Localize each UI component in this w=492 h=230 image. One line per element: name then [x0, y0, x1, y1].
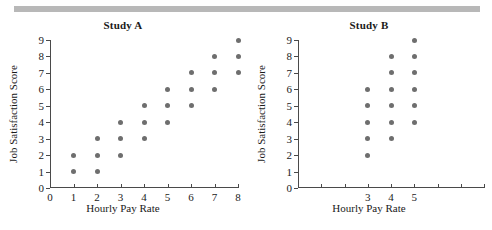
- plot-area-study-b: 0123456789345: [298, 40, 484, 188]
- chart-title-study-b: Study B: [246, 19, 492, 31]
- y-tick-b-5: [294, 106, 298, 107]
- y-tick-b-8: [294, 56, 298, 57]
- data-point: [389, 54, 394, 59]
- x-tick-a-3: [121, 184, 122, 188]
- data-point: [212, 70, 217, 75]
- data-point: [189, 70, 194, 75]
- data-point: [412, 54, 417, 59]
- x-tick-a-6: [191, 184, 192, 188]
- data-point: [236, 54, 241, 59]
- data-point: [95, 136, 100, 141]
- data-point: [165, 87, 170, 92]
- y-tick-b-9: [294, 40, 298, 41]
- y-tick-a-2: [46, 155, 50, 156]
- figure-container: Study A Job Satisfaction Score 012345678…: [0, 0, 492, 230]
- x-axis-title-study-b: Hourly Pay Rate: [246, 202, 492, 214]
- y-tick-label-b-8: 8: [287, 51, 293, 62]
- y-tick-label-b-7: 7: [287, 67, 293, 78]
- y-tick-b-4: [294, 122, 298, 123]
- data-point: [412, 87, 417, 92]
- data-point: [389, 103, 394, 108]
- data-point: [236, 70, 241, 75]
- data-point: [118, 153, 123, 158]
- y-tick-a-4: [46, 122, 50, 123]
- x-tick-b-3: [368, 184, 369, 188]
- y-tick-label-b-1: 1: [287, 166, 293, 177]
- data-point: [189, 103, 194, 108]
- x-tick-b-2: [345, 184, 346, 188]
- data-point: [165, 103, 170, 108]
- x-tick-a-2: [97, 184, 98, 188]
- y-tick-label-a-4: 4: [39, 117, 45, 128]
- x-tick-b-1: [321, 184, 322, 188]
- data-point: [365, 87, 370, 92]
- y-axis-line-study-b: [298, 40, 299, 186]
- data-point: [412, 103, 417, 108]
- y-tick-label-a-3: 3: [39, 133, 45, 144]
- data-point: [95, 153, 100, 158]
- data-point: [142, 120, 147, 125]
- chart-title-study-a: Study A: [0, 19, 246, 31]
- y-tick-label-b-9: 9: [287, 35, 293, 46]
- x-tick-b-6: [438, 184, 439, 188]
- y-axis-title-text: Job Satisfaction Score: [255, 65, 267, 163]
- data-point: [236, 38, 241, 43]
- y-tick-label-b-3: 3: [287, 133, 293, 144]
- y-tick-label-a-7: 7: [39, 67, 45, 78]
- data-point: [389, 70, 394, 75]
- y-tick-b-0: [294, 188, 298, 189]
- y-tick-label-b-4: 4: [287, 117, 293, 128]
- x-tick-b-7: [461, 184, 462, 188]
- x-tick-b-8: [484, 184, 485, 188]
- data-point: [71, 169, 76, 174]
- data-point: [142, 136, 147, 141]
- data-point: [412, 38, 417, 43]
- plot-area-study-a: 0123456789012345678: [50, 40, 238, 188]
- y-tick-b-7: [294, 73, 298, 74]
- y-axis-title-study-a: Job Satisfaction Score: [6, 40, 20, 188]
- x-tick-a-0: [50, 184, 51, 188]
- data-point: [365, 120, 370, 125]
- data-point: [71, 153, 76, 158]
- y-tick-label-a-0: 0: [39, 183, 45, 194]
- y-tick-a-9: [46, 40, 50, 41]
- data-point: [365, 153, 370, 158]
- y-tick-b-3: [294, 139, 298, 140]
- y-tick-label-a-2: 2: [39, 150, 45, 161]
- y-tick-label-a-1: 1: [39, 166, 45, 177]
- y-tick-a-8: [46, 56, 50, 57]
- x-tick-a-7: [215, 184, 216, 188]
- data-point: [412, 120, 417, 125]
- x-tick-a-8: [238, 184, 239, 188]
- y-tick-label-a-6: 6: [39, 84, 45, 95]
- data-point: [389, 120, 394, 125]
- y-tick-label-b-6: 6: [287, 84, 293, 95]
- chart-panel-study-b: Study B Job Satisfaction Score 012345678…: [246, 0, 492, 230]
- data-point: [165, 120, 170, 125]
- y-tick-b-1: [294, 172, 298, 173]
- x-tick-b-5: [414, 184, 415, 188]
- y-axis-line-study-a: [50, 40, 51, 186]
- data-point: [118, 136, 123, 141]
- data-point: [365, 136, 370, 141]
- y-tick-a-0: [46, 188, 50, 189]
- x-tick-a-4: [144, 184, 145, 188]
- y-tick-a-1: [46, 172, 50, 173]
- data-point: [389, 136, 394, 141]
- y-tick-label-a-8: 8: [39, 51, 45, 62]
- data-point: [118, 120, 123, 125]
- y-axis-title-text: Job Satisfaction Score: [7, 65, 19, 163]
- data-point: [212, 54, 217, 59]
- x-tick-b-4: [391, 184, 392, 188]
- x-axis-title-study-a: Hourly Pay Rate: [0, 202, 246, 214]
- data-point: [142, 103, 147, 108]
- x-tick-a-5: [168, 184, 169, 188]
- y-tick-label-b-0: 0: [287, 183, 293, 194]
- y-tick-label-a-9: 9: [39, 35, 45, 46]
- y-tick-b-6: [294, 89, 298, 90]
- data-point: [389, 87, 394, 92]
- data-point: [95, 169, 100, 174]
- y-tick-a-6: [46, 89, 50, 90]
- x-tick-a-1: [74, 184, 75, 188]
- y-tick-a-7: [46, 73, 50, 74]
